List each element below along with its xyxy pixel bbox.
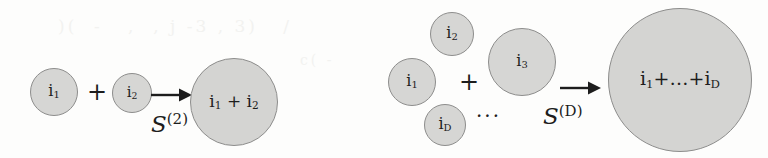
script-s-symbol-right: S [543, 103, 559, 129]
circle-input-i2-right: i2 [430, 12, 474, 56]
label-i1-right: i1 [406, 73, 417, 90]
label-i2-left: i2 [127, 85, 138, 100]
circle-input-i3-right: i3 [488, 28, 556, 96]
circle-input-i1-left: i1 [30, 68, 78, 116]
script-s-superscript-left: (2) [167, 110, 188, 128]
arrow-left [151, 85, 193, 105]
operator-label-right: S(D) [543, 104, 583, 128]
bleed-through-artifact: )( - , , j -3 , 3) / [58, 16, 292, 36]
label-i1-left: i1 [48, 83, 59, 100]
operator-label-left: S(2) [151, 112, 188, 136]
plus-sign-left: + [87, 80, 107, 104]
circle-input-iD-right: iD [424, 104, 466, 146]
figure-canvas: )( - , , j -3 , 3) / c( - i1 + i2 S(2) i… [0, 0, 768, 158]
script-s-superscript-right: (D) [559, 102, 583, 120]
circle-output-left: i1 + i2 [190, 58, 278, 146]
circle-output-right: i1+…+iD [608, 8, 752, 152]
arrow-right [560, 78, 602, 98]
label-output-right: i1+…+iD [640, 69, 720, 90]
label-i2-right: i2 [446, 25, 457, 42]
bleed-through-artifact-2: c( - [300, 52, 334, 68]
plus-sign-right: + [459, 70, 479, 94]
circle-input-i1-right: i1 [388, 58, 436, 106]
label-i3-right: i3 [516, 53, 527, 70]
circle-input-i2-left: i2 [112, 73, 152, 113]
label-output-left: i1 + i2 [209, 93, 258, 111]
ellipsis-cluster-right: ··· [476, 106, 501, 126]
script-s-symbol-left: S [151, 111, 167, 137]
label-iD-right: iD [438, 116, 451, 133]
